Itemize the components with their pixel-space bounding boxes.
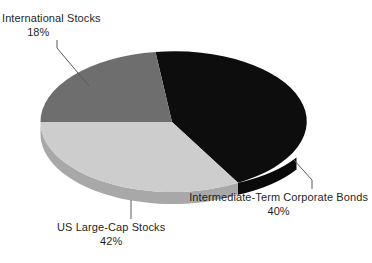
slice-label-bonds-line1: Intermediate-Term	[189, 191, 280, 203]
slice-label-us-large-cap-value: 42%	[57, 235, 165, 249]
pie-chart-graphic	[0, 0, 372, 263]
slice-label-international-value: 18%	[2, 26, 101, 40]
pie-chart: International Stocks 18% Intermediate-Te…	[0, 0, 372, 263]
slice-label-bonds-line2: Corporate Bonds	[283, 191, 368, 203]
slice-label-bonds-value: 40%	[189, 205, 368, 219]
slice-label-international: International Stocks 18%	[2, 12, 101, 39]
slice-label-bonds: Intermediate-Term Corporate Bonds 40%	[189, 191, 368, 218]
slice-label-us-large-cap: US Large-Cap Stocks 42%	[57, 221, 165, 248]
slice-label-us-large-cap-name: US Large-Cap Stocks	[57, 221, 165, 233]
leader-line-bonds	[294, 160, 312, 189]
pie-slice-international	[40, 52, 172, 122]
slice-label-international-name: International Stocks	[2, 12, 101, 26]
